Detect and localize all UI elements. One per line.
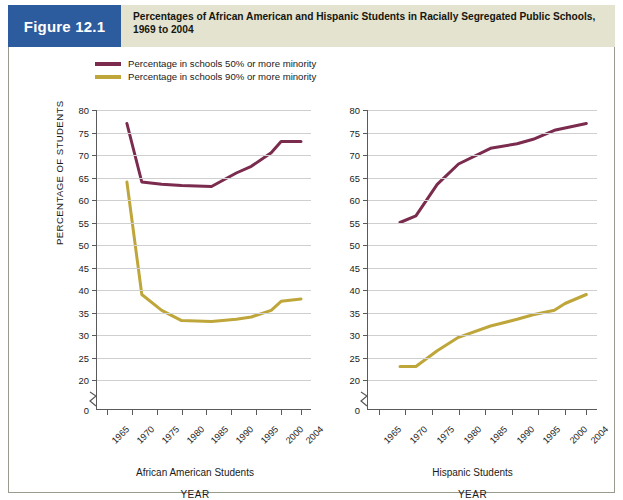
x-tick-label: 1985	[209, 424, 231, 446]
y-tick-label: 80	[350, 105, 360, 116]
y-tick	[92, 245, 97, 246]
y-tick-label: 50	[350, 240, 360, 251]
x-axis-title-left: YEAR	[60, 489, 330, 500]
y-tick	[92, 223, 97, 224]
gridline	[97, 380, 311, 381]
y-tick-label: 40	[350, 285, 360, 296]
x-tick	[432, 410, 433, 415]
gridline	[368, 358, 597, 359]
chart-legend: Percentage in schools 50% or more minori…	[95, 57, 316, 83]
y-tick	[92, 380, 97, 381]
gridline	[368, 223, 597, 224]
panel-hispanic: 8075706560555045403530252001965197019751…	[335, 95, 610, 495]
y-tick	[363, 313, 368, 314]
panel-african-american: PERCENTAGE OF STUDENTS 80757065605550454…	[60, 95, 330, 495]
x-tick	[301, 410, 302, 415]
y-tick	[363, 178, 368, 179]
y-tick	[363, 155, 368, 156]
y-tick	[92, 200, 97, 201]
x-tick-label: 1975	[435, 424, 457, 446]
y-tick-label: 75	[79, 127, 89, 138]
plot-area-hispanic: 8075706560555045403530252001965197019751…	[367, 110, 597, 410]
x-tick	[405, 410, 406, 415]
y-tick-label: 30	[350, 330, 360, 341]
gridline	[97, 223, 311, 224]
y-tick-label: 60	[79, 195, 89, 206]
figure-title-line2: 1969 to 2004	[133, 23, 605, 36]
legend-label-90-percent: Percentage in schools 90% or more minori…	[128, 70, 316, 83]
series-line	[127, 182, 301, 322]
x-tick	[538, 410, 539, 415]
y-tick-label: 55	[350, 217, 360, 228]
x-tick	[512, 410, 513, 415]
x-tick-label: 1990	[234, 424, 256, 446]
y-tick-label: 30	[79, 330, 89, 341]
y-axis-title-left: PERCENTAGE OF STUDENTS	[54, 100, 65, 245]
y-tick	[363, 380, 368, 381]
series-line	[400, 295, 586, 367]
y-tick-label: 40	[79, 285, 89, 296]
y-tick	[363, 290, 368, 291]
y-tick-label: 45	[79, 262, 89, 273]
x-tick-label: 1985	[488, 424, 510, 446]
legend-swatch-purple	[95, 62, 121, 66]
x-tick-label: 1970	[408, 424, 430, 446]
y-tick-label: 65	[350, 172, 360, 183]
figure-title: Percentages of African American and Hisp…	[121, 5, 615, 47]
y-tick	[92, 313, 97, 314]
x-tick	[565, 410, 566, 415]
y-tick-label: 35	[350, 307, 360, 318]
y-tick	[92, 290, 97, 291]
y-tick-label: 70	[79, 150, 89, 161]
y-tick	[363, 245, 368, 246]
gridline	[97, 200, 311, 201]
x-tick-label: 1990	[515, 424, 537, 446]
y-tick-label: 35	[79, 307, 89, 318]
x-tick	[231, 410, 232, 415]
figure-container: Figure 12.1 Percentages of African Ameri…	[0, 0, 623, 500]
y-tick-label: 75	[350, 127, 360, 138]
x-tick-label: 1995	[541, 424, 563, 446]
x-tick-label: 1965	[110, 424, 132, 446]
x-tick	[485, 410, 486, 415]
series-line	[400, 124, 586, 223]
legend-item-50-percent: Percentage in schools 50% or more minori…	[95, 57, 316, 70]
gridline	[97, 290, 311, 291]
y-tick-label: 0	[84, 405, 89, 416]
y-tick-label: 25	[79, 352, 89, 363]
gridline	[97, 133, 311, 134]
y-tick	[363, 335, 368, 336]
y-tick	[363, 223, 368, 224]
gridline	[97, 313, 311, 314]
x-tick-label: 2004	[304, 424, 326, 446]
plot-area-african-american: 8075706560555045403530252001965197019751…	[96, 110, 311, 410]
y-tick-label: 45	[350, 262, 360, 273]
x-tick-label: 1965	[381, 424, 403, 446]
x-tick-label: 2004	[589, 424, 611, 446]
gridline	[368, 245, 597, 246]
x-tick	[107, 410, 108, 415]
gridline	[368, 335, 597, 336]
gridline	[368, 290, 597, 291]
x-axis-title-right: YEAR	[335, 489, 610, 500]
legend-swatch-gold	[95, 75, 121, 79]
y-tick-label: 20	[350, 375, 360, 386]
x-tick	[379, 410, 380, 415]
panel-caption-african-american: African American Students	[60, 467, 330, 478]
x-tick	[132, 410, 133, 415]
x-tick	[206, 410, 207, 415]
x-tick-label: 1970	[135, 424, 157, 446]
y-tick	[363, 268, 368, 269]
y-tick-label: 0	[355, 405, 360, 416]
gridline	[368, 313, 597, 314]
y-tick-label: 65	[79, 172, 89, 183]
y-tick	[363, 133, 368, 134]
gridline	[368, 110, 597, 111]
x-tick-label: 2000	[284, 424, 306, 446]
y-tick	[363, 358, 368, 359]
y-tick	[92, 335, 97, 336]
y-tick-label: 60	[350, 195, 360, 206]
gridline	[97, 178, 311, 179]
gridline	[368, 380, 597, 381]
x-tick	[256, 410, 257, 415]
